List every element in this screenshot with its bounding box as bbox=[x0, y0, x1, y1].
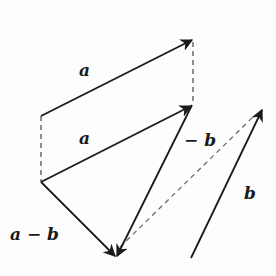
vector-a-lower bbox=[41, 106, 191, 182]
vector-neg-b bbox=[117, 105, 192, 256]
vector-a-minus-b bbox=[41, 182, 115, 256]
label-b: b bbox=[244, 185, 256, 202]
label-a-minus-b: a − b bbox=[10, 226, 59, 243]
vector-diagram: a a − b a − b b bbox=[0, 0, 276, 276]
vector-a-top bbox=[41, 40, 192, 116]
label-a-top: a bbox=[79, 62, 90, 79]
label-a-lower: a bbox=[79, 130, 90, 147]
label-neg-b: − b bbox=[184, 132, 216, 149]
